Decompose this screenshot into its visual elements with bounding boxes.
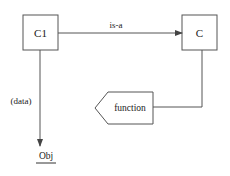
node-function-label: function bbox=[114, 103, 146, 113]
edge-c-to-function bbox=[153, 50, 202, 107]
edge-is-a-label: is-a bbox=[110, 20, 123, 30]
edge-is-a: is-a bbox=[58, 20, 182, 33]
edge-data-label: (data) bbox=[11, 96, 32, 106]
edge-data: (data) bbox=[11, 50, 40, 146]
node-obj-label: Obj bbox=[39, 151, 53, 161]
node-c1[interactable]: C1 bbox=[23, 15, 58, 50]
node-c-label: C bbox=[196, 27, 203, 39]
diagram-canvas: C1 C is-a (data) Obj function bbox=[0, 0, 230, 176]
node-function[interactable]: function bbox=[95, 92, 153, 124]
node-obj[interactable]: Obj bbox=[36, 151, 56, 163]
node-c[interactable]: C bbox=[182, 15, 217, 50]
node-c1-label: C1 bbox=[34, 27, 47, 39]
